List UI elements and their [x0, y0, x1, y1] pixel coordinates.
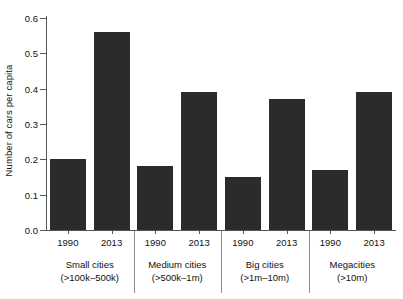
group-name: Megacities: [330, 259, 375, 270]
bar: [356, 92, 392, 230]
bar: [94, 32, 130, 230]
y-axis-tick-label: 0.1: [2, 189, 38, 200]
x-axis-year-label: 1990: [145, 237, 166, 248]
y-axis-tick-label: 0.0: [2, 225, 38, 236]
x-axis-tick: [199, 230, 200, 234]
x-axis-group-label: Medium cities(>500k–1m): [148, 258, 206, 284]
x-axis-tick: [330, 230, 331, 234]
group-range: (>500k–1m): [148, 271, 206, 284]
x-axis-group-label: Megacities(>10m): [330, 258, 375, 284]
group-separator: [221, 231, 222, 293]
bar-chart-figure: Number of cars per capita 0.00.10.20.30.…: [0, 0, 403, 299]
x-axis-year-label: 2013: [189, 237, 210, 248]
y-axis-tick-label: 0.2: [2, 154, 38, 165]
bar: [225, 177, 261, 230]
y-axis-tick-label: 0.4: [2, 83, 38, 94]
group-name: Small cities: [66, 259, 114, 270]
bar: [312, 170, 348, 230]
x-axis-group-label: Big cities(>1m–10m): [240, 258, 289, 284]
y-axis-tick-label: 0.5: [2, 48, 38, 59]
x-axis-year-label: 2013: [364, 237, 385, 248]
group-range: (>1m–10m): [240, 271, 289, 284]
bar: [137, 166, 173, 230]
x-axis-year-label: 2013: [101, 237, 122, 248]
group-range: (>10m): [330, 271, 375, 284]
group-range: (>100k–500k): [61, 271, 119, 284]
group-separator: [309, 231, 310, 293]
bar: [50, 159, 86, 230]
x-axis-tick: [155, 230, 156, 234]
y-axis-tick-label: 0.6: [2, 13, 38, 24]
y-axis-tick-label: 0.3: [2, 119, 38, 130]
plot-area: [46, 18, 396, 230]
group-name: Big cities: [246, 259, 284, 270]
x-axis-group-label: Small cities(>100k–500k): [61, 258, 119, 284]
x-axis-year-label: 1990: [57, 237, 78, 248]
x-axis-year-label: 1990: [320, 237, 341, 248]
x-axis-tick: [374, 230, 375, 234]
x-axis-tick: [112, 230, 113, 234]
x-axis-year-label: 2013: [276, 237, 297, 248]
x-axis-tick: [243, 230, 244, 234]
bar: [269, 99, 305, 230]
group-name: Medium cities: [148, 259, 206, 270]
x-axis-tick: [287, 230, 288, 234]
x-axis-year-label: 1990: [232, 237, 253, 248]
group-separator: [134, 231, 135, 293]
bar: [181, 92, 217, 230]
x-axis-tick: [68, 230, 69, 234]
